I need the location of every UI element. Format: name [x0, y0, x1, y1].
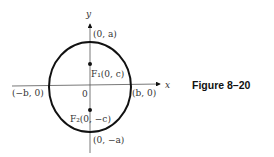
figure-caption: Figure 8–20 [192, 79, 251, 91]
right-vertex-label: (b, 0) [132, 88, 156, 98]
left-vertex-label: (−b, 0) [12, 88, 44, 98]
x-axis [12, 84, 160, 86]
focus-1-label: F₁(0, c) [91, 69, 124, 79]
focus-1-point [88, 62, 92, 66]
y-axis-label: y [85, 9, 92, 19]
ellipse-figure: y x 0 (0, a) (0, −a) (−b, 0) (b, 0) F₁(0… [0, 0, 274, 157]
focus-2-point [88, 108, 92, 112]
bottom-vertex-label: (0, −a) [93, 135, 124, 145]
x-axis-label: x [165, 80, 170, 90]
focus-2-label: F₂(0, −c) [70, 114, 111, 124]
origin-label: 0 [82, 89, 88, 99]
top-vertex-label: (0, a) [93, 29, 117, 39]
